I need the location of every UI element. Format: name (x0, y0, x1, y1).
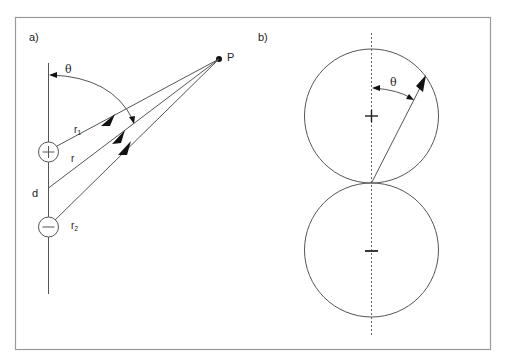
figure-frame (16, 18, 491, 350)
panel-a-label: a) (29, 31, 39, 43)
plus-sign-icon (365, 110, 378, 122)
r1-line (57, 59, 219, 146)
r1-arrowhead-icon (101, 114, 115, 126)
positive-charge-icon (39, 142, 59, 162)
theta-b-arrow-right-icon (406, 94, 414, 100)
theta-label-a: θ (65, 63, 72, 76)
theta-b-arrow-left-icon (372, 85, 380, 91)
panel-b-label: b) (258, 31, 268, 43)
theta-label-b: θ (390, 76, 397, 89)
dipole-figure: a) P θ (0, 0, 505, 359)
r2-line (55, 59, 219, 220)
panel-b: b) θ (258, 31, 439, 335)
r-arrowhead-icon (112, 130, 125, 144)
r-label: r (71, 153, 75, 164)
d-label: d (32, 187, 38, 199)
r2-label: r2 (71, 220, 78, 232)
radius-arrowhead-icon (416, 75, 426, 92)
theta-arrow-left-icon (49, 72, 57, 78)
point-p-label: P (227, 51, 234, 63)
radius-vector (372, 84, 423, 183)
theta-arrow-right-icon (129, 116, 135, 124)
theta-arc (51, 75, 133, 120)
panel-a: a) P θ (29, 31, 234, 294)
r1-label: r1 (74, 124, 81, 136)
